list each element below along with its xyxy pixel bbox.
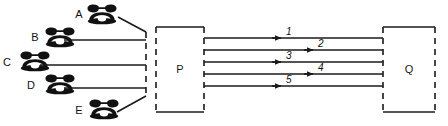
network-diagram: P Q A B C D [0,0,448,126]
trunk-channel-4[interactable]: 4 [204,62,383,74]
subscriber-c[interactable]: C [3,52,146,72]
trunk-label-4: 4 [318,62,324,73]
trunk-channel-2[interactable]: 2 [204,38,383,50]
telephone-icon [90,100,119,120]
subscriber-d[interactable]: D [27,75,146,95]
subscriber-a-label: A [75,8,83,20]
subscriber-b[interactable]: B [31,28,146,48]
subscriber-a-line [118,17,146,32]
trunk-channel-3[interactable]: 3 [204,50,383,62]
trunk-channel-5[interactable]: 5 [204,74,383,86]
subscriber-e-label: E [75,104,82,116]
trunk-label-3: 3 [286,50,292,61]
subscriber-e[interactable]: E [75,96,146,119]
telephone-icon [46,28,75,48]
trunk-label-1: 1 [286,26,292,37]
switch-node-p[interactable]: P [156,27,204,112]
node-p-label: P [176,63,183,75]
subscriber-e-line [117,96,146,112]
telephone-icon [46,75,75,95]
subscriber-b-label: B [31,31,38,43]
subscriber-c-label: C [3,56,11,68]
subscriber-a[interactable]: A [75,5,146,32]
switch-node-q[interactable]: Q [383,27,435,112]
trunk-channel-1[interactable]: 1 [204,26,383,38]
subscriber-d-label: D [27,79,35,91]
diagram-canvas: P Q A B C D [0,0,448,126]
telephone-icon [88,5,117,25]
trunk-label-5: 5 [286,74,292,85]
trunk-label-2: 2 [317,38,324,49]
telephone-icon [21,52,50,72]
node-q-label: Q [405,63,414,75]
